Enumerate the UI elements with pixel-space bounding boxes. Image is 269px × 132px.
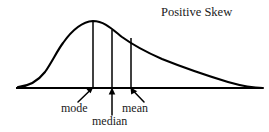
mode-arrow-icon <box>78 88 93 103</box>
mean-arrow-icon <box>131 88 145 103</box>
density-curve <box>18 21 263 88</box>
median-arrow-icon <box>109 88 116 116</box>
mean-label: mean <box>122 102 148 114</box>
mode-label: mode <box>61 102 88 114</box>
median-label: median <box>92 115 127 127</box>
positive-skew-figure: Positive Skew mode median mean <box>0 0 269 132</box>
chart-title: Positive Skew <box>161 6 232 19</box>
